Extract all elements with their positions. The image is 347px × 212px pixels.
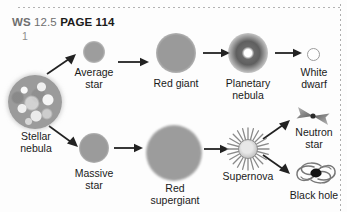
label-stellar-nebula: Stellar nebula [5,131,67,154]
label-planetary-nebula: Planetary nebula [214,78,282,101]
supernova-icon [227,128,269,170]
red-supergiant-icon [146,125,202,181]
label-red-supergiant: Red supergiant [136,183,214,206]
label-massive-star: Massive star [62,168,126,191]
label-red-giant: Red giant [148,78,204,90]
page-label: PAGE 114 [60,16,114,28]
dotted-rule-vertical [340,4,341,212]
star-icon [79,133,109,163]
red-giant-icon [156,33,196,73]
worksheet-header: WS 12.5 PAGE 114 [12,16,114,28]
question-number: 1 [22,30,28,42]
label-neutron-star: Neutron star [286,127,342,150]
arrow-red-giant-to-planetary-nebula [203,47,231,59]
star-icon [83,41,105,63]
arrow-planetary-nebula-to-white-dwarf [275,47,303,59]
label-supernova: Supernova [212,171,284,183]
arrow-massive-star-to-red-supergiant [114,142,144,154]
label-average-star: Average star [64,67,124,90]
black-hole-icon [294,158,338,188]
neutron-star-icon [296,106,330,126]
nebula-icon [8,75,62,129]
label-black-hole: Black hole [282,190,346,202]
worksheet-page: WS 12.5 PAGE 114 1 [0,0,347,212]
planetary-nebula-icon [228,33,268,73]
label-white-dwarf: White dwarf [288,67,340,90]
worksheet-prefix: WS [12,16,31,28]
dotted-rule-horizontal [18,7,340,8]
white-dwarf-icon [307,48,320,61]
supernova-core [238,139,258,159]
worksheet-number: 12.5 [34,16,57,28]
